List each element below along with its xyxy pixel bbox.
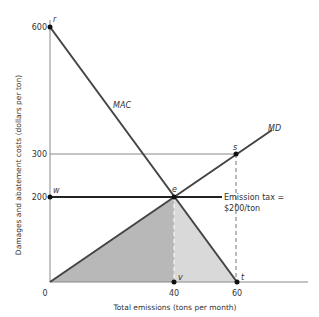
chart: r w e s v t MAC MD Emission tax = $200/t… <box>0 0 319 317</box>
label-tax-line1: Emission tax = <box>224 193 284 202</box>
label-w: w <box>53 186 60 195</box>
label-r: r <box>53 15 57 24</box>
label-mac: MAC <box>113 101 131 110</box>
label-s: s <box>233 143 237 152</box>
xtick-40: 40 <box>169 289 179 298</box>
label-e: e <box>172 185 177 194</box>
label-v: v <box>178 273 183 282</box>
point-t <box>235 280 240 285</box>
point-s <box>234 152 239 157</box>
point-w <box>48 195 53 200</box>
point-v <box>172 280 177 285</box>
label-t: t <box>241 273 245 282</box>
ytick-600: 600 <box>32 23 47 32</box>
point-r <box>48 25 53 30</box>
y-axis-title: Damages and abatement costs (dollars per… <box>14 75 23 255</box>
ytick-300: 300 <box>32 150 47 159</box>
point-e <box>172 195 177 200</box>
ytick-200: 200 <box>32 193 47 202</box>
label-tax-line2: $200/ton <box>224 204 260 213</box>
xtick-0: 0 <box>42 289 47 298</box>
x-axis-title: Total emissions (tons per month) <box>112 303 236 312</box>
xtick-60: 60 <box>232 289 242 298</box>
label-md: MD <box>268 124 281 133</box>
